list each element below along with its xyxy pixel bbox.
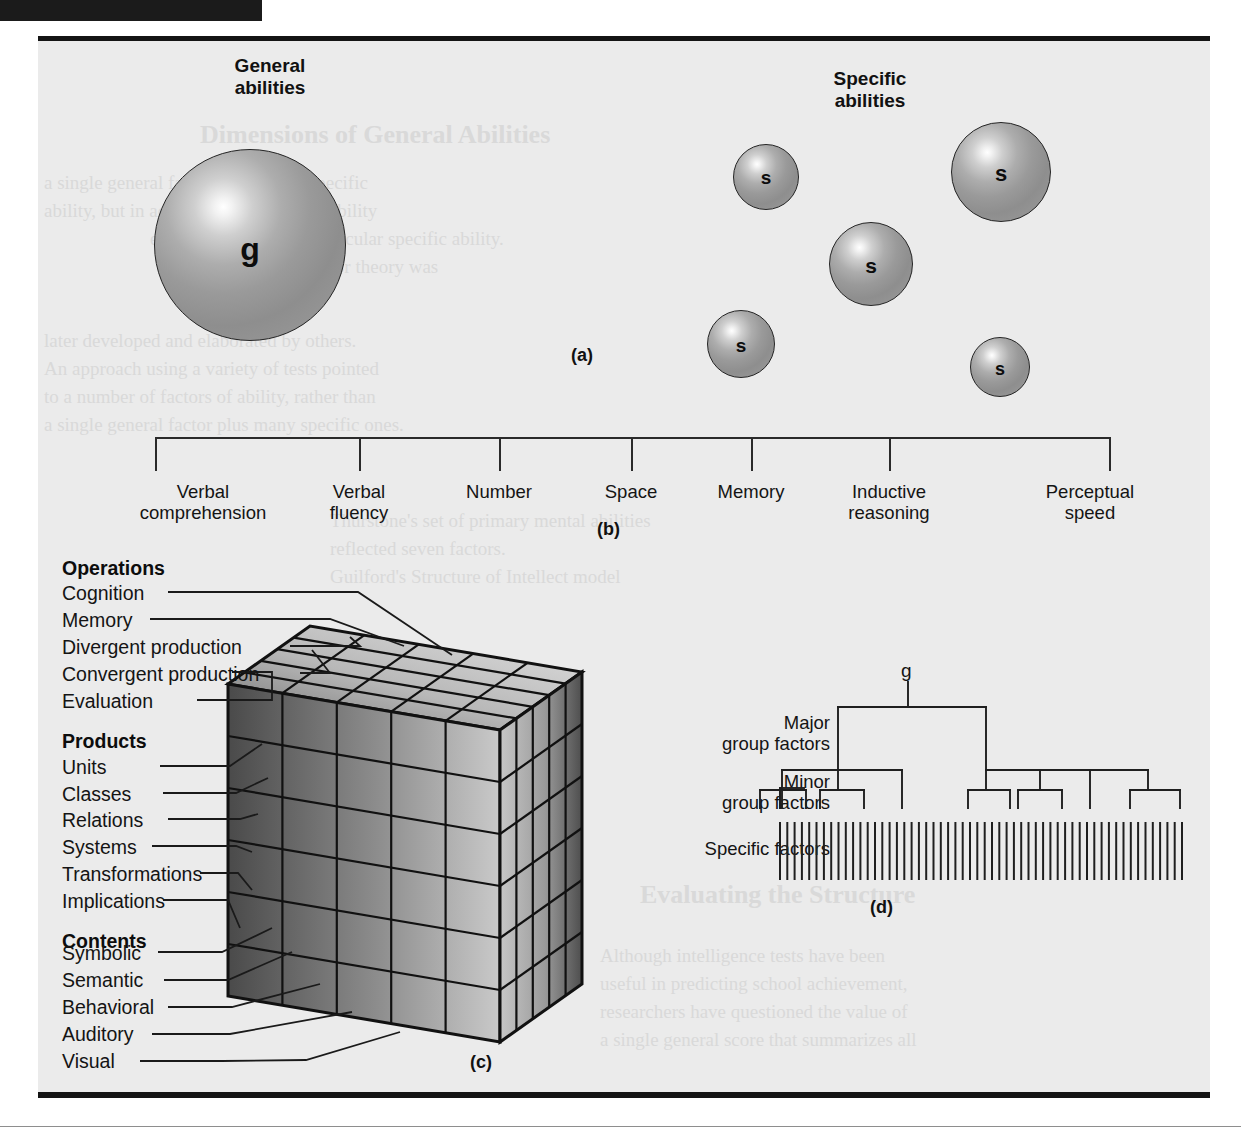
panel-d-tree bbox=[0, 0, 1241, 1140]
figure-page: Dimensions of General Abilities a single… bbox=[0, 0, 1241, 1140]
panel-d-letter: (d) bbox=[870, 897, 893, 918]
